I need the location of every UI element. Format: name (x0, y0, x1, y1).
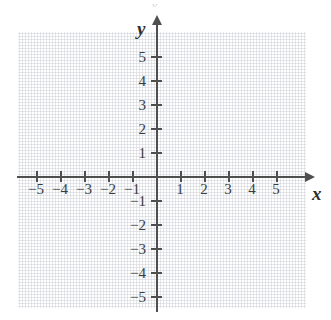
x-axis-arrowhead-icon (305, 172, 315, 182)
y-tick-mark (151, 224, 162, 226)
x-tick-label: 5 (263, 182, 289, 197)
y-tick-mark (151, 272, 162, 274)
y-tick-mark (151, 296, 162, 298)
coordinate-plane-figure: y −5 −4 −3 −2 −1 1 2 3 4 5 5 4 3 2 1 −1 … (0, 0, 331, 320)
y-tick-label: 3 (120, 98, 146, 113)
x-tick-label: −3 (71, 182, 97, 197)
y-tick-mark (151, 104, 162, 106)
x-tick-label: 2 (191, 182, 217, 197)
y-axis-line (156, 24, 158, 312)
x-axis-label: x (312, 184, 322, 203)
x-tick-label: 4 (239, 182, 265, 197)
top-edge-artifact: y (152, 0, 166, 7)
x-tick-label: 3 (215, 182, 241, 197)
y-tick-mark (151, 56, 162, 58)
x-tick-label: −5 (23, 182, 49, 197)
y-tick-label: 1 (120, 146, 146, 161)
y-tick-label: −2 (120, 218, 146, 233)
y-tick-mark (151, 200, 162, 202)
y-tick-label: 4 (120, 74, 146, 89)
y-tick-mark (151, 248, 162, 250)
x-tick-label: −2 (95, 182, 121, 197)
y-tick-label: −1 (120, 194, 146, 209)
y-tick-label: 2 (120, 122, 146, 137)
x-tick-label: 1 (167, 182, 193, 197)
y-tick-label: −4 (120, 266, 146, 281)
y-tick-mark (151, 128, 162, 130)
y-tick-mark (151, 80, 162, 82)
y-tick-label: −3 (120, 242, 146, 257)
y-axis-label: y (137, 19, 145, 38)
x-tick-label: −4 (47, 182, 73, 197)
background-grid (18, 32, 306, 308)
y-tick-label: −5 (120, 290, 146, 305)
y-axis-arrowhead-icon (152, 15, 162, 25)
y-tick-mark (151, 152, 162, 154)
y-tick-label: 5 (120, 50, 146, 65)
